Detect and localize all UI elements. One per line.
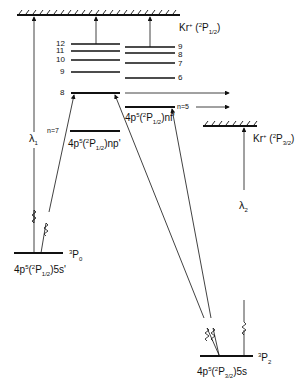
label-part: P — [89, 138, 96, 149]
np-series-levels — [70, 44, 120, 131]
label-part: ) — [217, 22, 220, 33]
label-part: )nf' — [161, 112, 175, 123]
label-part: 3/2 — [225, 373, 233, 379]
np-lowest-n: n=7 — [47, 126, 59, 136]
nf-lowest-n: n=5 — [177, 102, 189, 112]
label-part: P — [146, 112, 153, 123]
nf-level-6: 6 — [178, 73, 182, 83]
label-part: )5s — [233, 366, 247, 377]
ionization-limit-p12 — [17, 10, 180, 15]
label-part: 1/2 — [209, 29, 217, 35]
label-part: 3/2 — [283, 140, 291, 146]
label-part: 0 — [79, 256, 82, 262]
label-part: P — [261, 352, 268, 363]
np-series-label: 4p5(2P1/2)np' — [68, 136, 121, 153]
label-part: 1 — [35, 140, 38, 146]
p0-term-label: 3P0 — [69, 247, 82, 264]
p0-config-label: 4p5(2P1/2)5s' — [14, 262, 66, 279]
ion-limit-label-p32: Kr+ (2P3/2) — [253, 131, 294, 148]
label-part: 1/2 — [42, 271, 50, 277]
label-part: P — [35, 264, 42, 275]
np-level-10: 10 — [56, 55, 65, 65]
nf-level-7: 7 — [178, 59, 182, 69]
p2-transitions — [115, 95, 246, 355]
ion-limit-label-p12: Kr+ (2P1/2) — [179, 20, 220, 37]
label-part: P — [202, 22, 209, 33]
nf-series-levels — [125, 47, 175, 107]
label-part: Kr — [253, 133, 263, 144]
label-part: P — [276, 133, 283, 144]
label-part: 1/2 — [96, 145, 104, 151]
label-part: 4p — [197, 366, 208, 377]
lambda1-label: λ1 — [29, 133, 38, 148]
ionization-arrows — [96, 17, 150, 47]
np-level-9: 9 — [60, 67, 64, 77]
label-part: P — [218, 366, 225, 377]
label-part: P — [72, 249, 79, 260]
nf-series-label: 4p5(2P1/2)nf' — [125, 110, 175, 127]
np-level-8: 8 — [60, 88, 64, 98]
energy-level-diagram — [0, 0, 302, 389]
label-part: )np' — [104, 138, 120, 149]
p2-config-label: 4p5(2P3/2)5s — [197, 364, 247, 381]
ionization-limit-p32 — [203, 121, 257, 126]
label-part: 4p — [68, 138, 79, 149]
label-part: 4p — [14, 264, 25, 275]
label-part: )5s' — [50, 264, 66, 275]
label-part: 2 — [245, 207, 248, 213]
label-part: 1/2 — [153, 119, 161, 125]
label-part: 2 — [268, 359, 271, 365]
label-part: ) — [291, 133, 294, 144]
p0-to-np-transition — [41, 95, 74, 253]
label-part: Kr — [179, 22, 189, 33]
lambda2-label: λ2 — [239, 200, 248, 215]
p2-term-label: 3P2 — [258, 350, 271, 367]
label-part: 4p — [125, 112, 136, 123]
